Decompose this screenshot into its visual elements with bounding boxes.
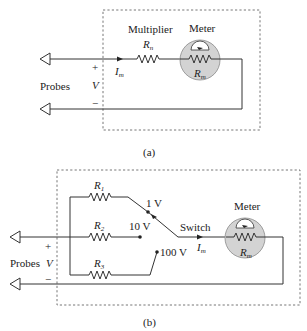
r2-resistor-icon: [89, 233, 111, 241]
r1-label: R1: [93, 179, 104, 193]
switch-label: Switch: [180, 221, 211, 233]
probe-positive-icon-b: [10, 231, 20, 243]
r3-wire-right: [111, 252, 157, 275]
figure-b: R1 R2 R3 1 V 10 V 100 V Switch Meter Rm …: [10, 170, 300, 329]
r2-label: R2: [93, 219, 105, 233]
figure-a: Multiplier Rn Meter Rm Im Probes + V − (…: [40, 10, 260, 159]
probe-negative-icon: [40, 103, 50, 115]
contact-10v[interactable]: [138, 235, 142, 239]
voltmeter-diagrams: Multiplier Rn Meter Rm Im Probes + V − (…: [0, 0, 307, 331]
r1-resistor-icon: [89, 193, 111, 201]
plus-sign-b: +: [45, 240, 51, 252]
range-label-100v: 100 V: [160, 246, 187, 258]
minus-sign-b: −: [45, 273, 51, 285]
range-label-10v: 10 V: [129, 220, 151, 232]
voltage-label-a: V: [92, 79, 100, 91]
probe-negative-icon-b: [10, 278, 20, 290]
probes-label-b: Probes: [10, 257, 40, 269]
caption-a: (a): [143, 146, 156, 159]
r3-resistor-icon: [89, 271, 111, 279]
meter-enclosure-a: [103, 10, 260, 130]
multiplier-resistor-icon: [137, 55, 160, 63]
probe-positive-icon: [40, 53, 50, 65]
caption-b: (b): [143, 316, 156, 329]
r3-label: R3: [93, 257, 105, 271]
current-label-b: Im: [196, 241, 206, 255]
rn-label: Rn: [142, 38, 154, 52]
minus-sign-a: −: [92, 97, 98, 109]
contact-100v[interactable]: [155, 250, 159, 254]
r1-to-1v-contact: [128, 197, 148, 212]
plus-sign-a: +: [92, 61, 98, 73]
range-label-1v: 1 V: [146, 197, 162, 209]
meter-label-a: Meter: [189, 22, 216, 34]
current-label-a: Im: [114, 65, 124, 79]
multiplier-label: Multiplier: [128, 23, 173, 35]
probes-label-a: Probes: [40, 80, 70, 92]
current-arrow-icon-b: [197, 235, 203, 240]
meter-label-b: Meter: [234, 200, 261, 212]
voltage-label-b: V: [46, 257, 54, 269]
current-arrow-icon: [117, 57, 123, 62]
